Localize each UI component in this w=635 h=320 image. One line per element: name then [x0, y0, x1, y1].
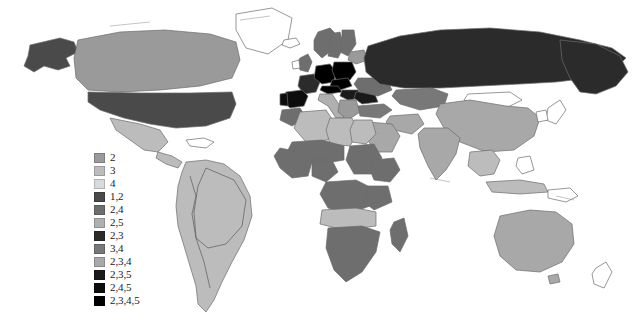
- region-southeast-asia: [468, 150, 500, 176]
- legend-label: 2,4: [110, 204, 123, 215]
- legend-item[interactable]: 2,3,5: [94, 268, 160, 281]
- legend-item[interactable]: 4: [94, 177, 160, 190]
- region-turkey: [358, 104, 392, 118]
- region-united-states: [88, 92, 236, 128]
- region-south-america: [176, 160, 252, 312]
- region-canada: [74, 30, 240, 92]
- legend-label: 3,4: [110, 243, 123, 254]
- legend-label: 2,3,4,5: [110, 295, 140, 306]
- legend-swatch: [94, 283, 105, 293]
- legend-item[interactable]: 1,2: [94, 190, 160, 203]
- legend-swatch: [94, 153, 105, 163]
- legend-label: 2: [110, 152, 115, 163]
- region-greenland: [236, 8, 292, 54]
- legend-label: 3: [110, 165, 115, 176]
- legend-label: 4: [110, 178, 115, 189]
- legend-item[interactable]: 2,3,4,5: [94, 294, 160, 307]
- legend-swatch: [94, 192, 105, 202]
- region-india: [418, 128, 460, 180]
- legend-item[interactable]: 2,3: [94, 229, 160, 242]
- region-new-zealand: [592, 262, 612, 288]
- region-southern-africa: [326, 226, 380, 282]
- legend-label: 2,3,5: [110, 269, 132, 280]
- legend-swatch: [94, 296, 105, 306]
- region-caribbean: [186, 138, 214, 148]
- legend-item[interactable]: 2,3,4: [94, 255, 160, 268]
- region-philippines: [516, 156, 534, 174]
- region-indonesia: [486, 180, 548, 194]
- legend-label: 2,3: [110, 230, 123, 241]
- region-tasmania: [548, 274, 560, 284]
- legend-label: 2,3,4: [110, 256, 132, 267]
- region-russia-east: [560, 40, 628, 94]
- figure-canvas: 2 3 4 1,2 2,4 2,5 2,3 3,4: [0, 0, 635, 320]
- region-australia: [494, 210, 574, 272]
- legend-item[interactable]: 3: [94, 164, 160, 177]
- region-nigeria: [312, 160, 338, 182]
- legend-label: 1,2: [110, 191, 123, 202]
- legend-swatch: [94, 244, 105, 254]
- region-poland: [332, 62, 356, 80]
- region-austria: [320, 86, 342, 94]
- legend-item[interactable]: 2,5: [94, 216, 160, 229]
- legend-item[interactable]: 2: [94, 151, 160, 164]
- legend-swatch: [94, 179, 105, 189]
- legend-item[interactable]: 3,4: [94, 242, 160, 255]
- legend-swatch: [94, 270, 105, 280]
- legend-swatch: [94, 166, 105, 176]
- region-ireland: [292, 60, 300, 69]
- region-korea: [536, 110, 548, 122]
- region-madagascar: [390, 218, 408, 252]
- legend-label: 2,5: [110, 217, 123, 228]
- legend-swatch: [94, 231, 105, 241]
- legend-swatch: [94, 218, 105, 228]
- legend-label: 2,4,5: [110, 282, 132, 293]
- legend-swatch: [94, 257, 105, 267]
- region-united-kingdom: [298, 54, 312, 72]
- legend-item[interactable]: 2,4,5: [94, 281, 160, 294]
- map-legend: 2 3 4 1,2 2,4 2,5 2,3 3,4: [94, 151, 160, 307]
- region-ethiopia: [370, 158, 400, 182]
- legend-swatch: [94, 205, 105, 215]
- legend-item[interactable]: 2,4: [94, 203, 160, 216]
- region-japan: [546, 100, 566, 124]
- region-portugal: [280, 93, 288, 106]
- region-alaska: [24, 38, 78, 72]
